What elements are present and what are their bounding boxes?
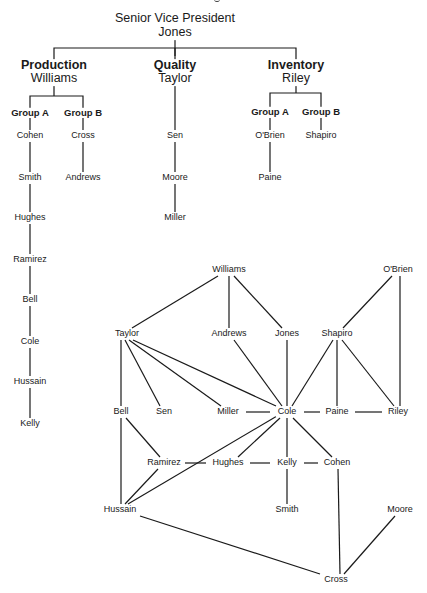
- network-node: Cole: [276, 407, 299, 417]
- network-node: Williams: [210, 265, 248, 275]
- org-member: Cross: [69, 131, 97, 141]
- org-member: O'Brien: [253, 131, 287, 141]
- production-group-b: Group B: [62, 108, 104, 118]
- network-node: Hussain: [102, 505, 139, 515]
- org-member: Shapiro: [303, 131, 338, 141]
- division-production-head: Williams: [29, 72, 80, 86]
- network-node: Paine: [323, 407, 350, 417]
- network-node: Andrews: [209, 329, 248, 339]
- network-node: Bell: [111, 407, 130, 417]
- org-member: Sen: [165, 131, 185, 141]
- inventory-group-b: Group B: [300, 107, 342, 117]
- org-member: Ramirez: [11, 255, 49, 265]
- network-node: Sen: [154, 407, 174, 417]
- network-node: Cross: [322, 575, 350, 585]
- org-member: Cole: [19, 337, 42, 347]
- org-member: Paine: [256, 173, 283, 183]
- org-member: Hussain: [12, 377, 49, 387]
- network-node: Taylor: [113, 329, 141, 339]
- network-node: Kelly: [275, 458, 299, 468]
- division-quality-head: Taylor: [156, 72, 193, 86]
- network-node: O'Brien: [381, 265, 415, 275]
- org-member: Kelly: [18, 419, 42, 429]
- network-node: Miller: [215, 407, 241, 417]
- root-title: Senior Vice President: [113, 12, 237, 26]
- network-node: Shapiro: [319, 329, 354, 339]
- network-node: Ramirez: [145, 458, 183, 468]
- production-group-a: Group A: [9, 108, 51, 118]
- org-member: Bell: [20, 295, 39, 305]
- org-member: Andrews: [63, 173, 102, 183]
- network-node: Smith: [273, 505, 300, 515]
- connector-lines: [0, 0, 427, 593]
- org-member: Moore: [160, 173, 190, 183]
- org-member: Hughes: [12, 213, 47, 223]
- root-name: Jones: [156, 26, 193, 40]
- network-node: Riley: [386, 407, 410, 417]
- network-node: Cohen: [322, 458, 353, 468]
- org-member: Miller: [162, 213, 188, 223]
- network-node: Hughes: [210, 458, 245, 468]
- inventory-group-a: Group A: [249, 107, 291, 117]
- org-member: Cohen: [15, 131, 46, 141]
- division-inventory-head: Riley: [280, 72, 312, 86]
- network-node: Jones: [273, 329, 301, 339]
- network-node: Moore: [385, 505, 415, 515]
- org-member: Smith: [16, 173, 43, 183]
